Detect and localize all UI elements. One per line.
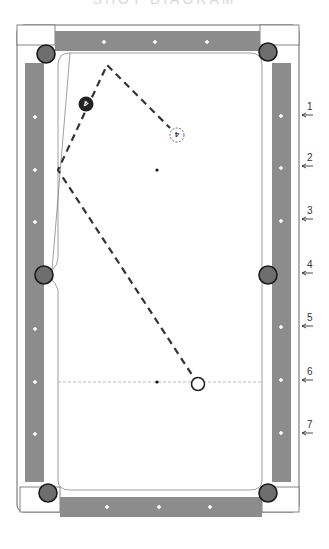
rail-top bbox=[55, 31, 260, 51]
pocket-top-right bbox=[259, 43, 277, 61]
side-marker-7: 7 bbox=[302, 419, 313, 435]
pocket-side-left bbox=[35, 266, 53, 284]
pocket-bottom-left bbox=[39, 484, 57, 502]
arrow-left-icon bbox=[302, 164, 313, 168]
cue-ball bbox=[192, 378, 205, 391]
side-marker-label: 5 bbox=[307, 312, 313, 323]
side-marker-6: 6 bbox=[302, 366, 313, 382]
arrow-left-icon bbox=[302, 431, 313, 435]
side-marker-1: 1 bbox=[302, 101, 313, 117]
side-marker-5: 5 bbox=[302, 312, 313, 328]
side-marker-label: 4 bbox=[307, 259, 313, 270]
side-markers: 1234567 bbox=[302, 101, 313, 435]
pocket-top-left bbox=[37, 45, 55, 63]
head-spot bbox=[155, 380, 158, 383]
pocket-bottom-right bbox=[259, 484, 277, 502]
side-marker-label: 2 bbox=[307, 152, 313, 163]
arrow-left-icon bbox=[302, 271, 313, 275]
table-frame bbox=[17, 25, 299, 512]
corner-block-top-right bbox=[260, 25, 299, 45]
arrow-left-icon bbox=[302, 113, 313, 117]
ghost-ball-label: 4 bbox=[174, 130, 179, 139]
ghost-ball: 4 bbox=[170, 128, 184, 142]
arrow-left-icon bbox=[302, 217, 313, 221]
pool-table-diagram: 4 4 1234567 bbox=[0, 0, 329, 549]
corner-block-top-left bbox=[17, 25, 55, 45]
arrow-left-icon bbox=[302, 324, 313, 328]
pocket-side-right bbox=[259, 266, 277, 284]
side-marker-label: 7 bbox=[307, 419, 313, 430]
arrow-left-icon bbox=[302, 378, 313, 382]
side-marker-label: 1 bbox=[307, 101, 313, 112]
side-marker-3: 3 bbox=[302, 205, 313, 221]
foot-spot bbox=[155, 168, 158, 171]
side-marker-2: 2 bbox=[302, 152, 313, 168]
object-ball-4: 4 bbox=[79, 97, 94, 112]
side-marker-4: 4 bbox=[302, 259, 313, 275]
side-marker-label: 3 bbox=[307, 205, 313, 216]
side-marker-label: 6 bbox=[307, 366, 313, 377]
